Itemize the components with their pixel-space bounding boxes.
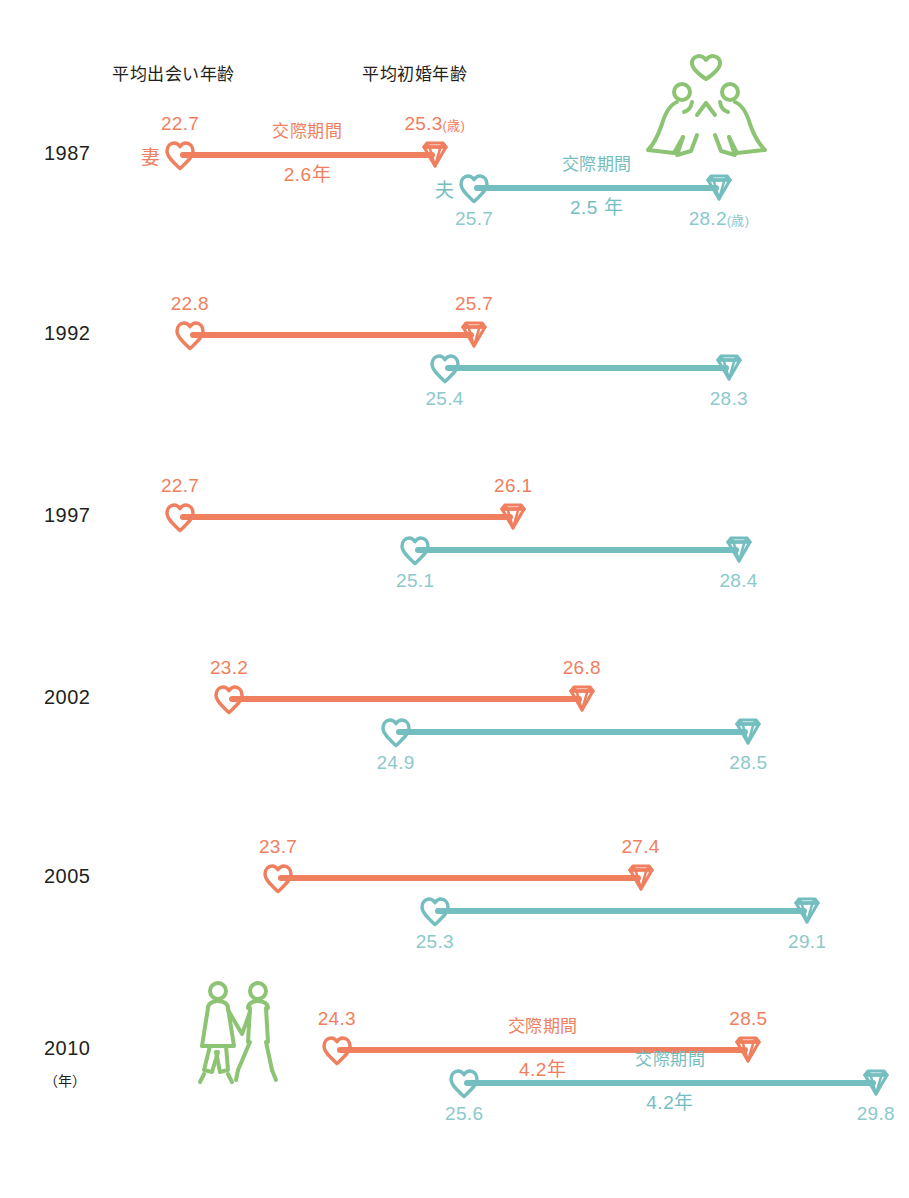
column-header-average-meeting-age: 平均出会い年齢 bbox=[112, 60, 235, 85]
courtship-line-husband bbox=[474, 185, 719, 191]
heart-marker-icon bbox=[418, 894, 452, 928]
wedding-couple-icon bbox=[646, 48, 766, 168]
diamond-marker-icon bbox=[496, 500, 530, 534]
marriage-age-value-wife: 25.3(歳) bbox=[404, 113, 465, 135]
courtship-line-husband bbox=[445, 365, 729, 371]
year-label: 1997 bbox=[44, 504, 91, 527]
heart-marker-icon bbox=[447, 1066, 481, 1100]
courtship-line-wife bbox=[180, 514, 513, 520]
marriage-age-value-husband: 28.5 bbox=[729, 752, 767, 774]
courtship-line-husband bbox=[415, 547, 738, 553]
meeting-age-value-wife: 22.7 bbox=[161, 113, 199, 135]
age-unit-label: (歳) bbox=[727, 213, 750, 228]
infographic-canvas: 平均出会い年齢 平均初婚年齢 bbox=[0, 0, 909, 1198]
year-label: 1992 bbox=[44, 322, 91, 345]
meeting-age-value-husband: 25.1 bbox=[396, 570, 434, 592]
meeting-age-value-husband: 25.6 bbox=[445, 1103, 483, 1125]
heart-marker-icon bbox=[379, 715, 413, 749]
courtship-line-wife bbox=[229, 696, 582, 702]
marriage-age-value-husband: 29.1 bbox=[788, 931, 826, 953]
meeting-age-value-wife: 23.7 bbox=[259, 836, 297, 858]
courtship-line-husband bbox=[464, 1080, 876, 1086]
diamond-marker-icon bbox=[702, 171, 736, 205]
courtship-duration-value-wife: 2.6年 bbox=[284, 163, 331, 187]
courtship-line-husband bbox=[435, 908, 807, 914]
year-label: 1987 bbox=[44, 142, 91, 165]
marriage-age-value-husband: 28.2(歳) bbox=[689, 208, 750, 230]
courtship-line-wife bbox=[180, 152, 435, 158]
courtship-line-wife bbox=[190, 332, 474, 338]
heart-marker-icon bbox=[163, 138, 197, 172]
year-label: 2002 bbox=[44, 686, 91, 709]
year-label: 2005 bbox=[44, 865, 91, 888]
marriage-age-value-husband: 28.4 bbox=[720, 570, 758, 592]
courtship-period-label-wife: 交際期間 bbox=[508, 1016, 578, 1037]
marriage-age-value-wife: 28.5 bbox=[729, 1008, 767, 1030]
marriage-age-value-wife: 26.1 bbox=[494, 475, 532, 497]
courtship-line-wife bbox=[278, 875, 641, 881]
courtship-period-label-husband: 交際期間 bbox=[562, 154, 632, 175]
role-label-wife: 妻 bbox=[141, 142, 160, 169]
marriage-age-value-wife: 25.7 bbox=[455, 293, 493, 315]
meeting-age-value-wife: 24.3 bbox=[318, 1008, 356, 1030]
diamond-marker-icon bbox=[565, 682, 599, 716]
diamond-marker-icon bbox=[731, 1033, 765, 1067]
diamond-marker-icon bbox=[722, 533, 756, 567]
heart-marker-icon bbox=[173, 318, 207, 352]
column-header-average-first-marriage-age: 平均初婚年齢 bbox=[362, 60, 467, 85]
heart-marker-icon bbox=[428, 351, 462, 385]
diamond-marker-icon bbox=[790, 894, 824, 928]
meeting-age-value-wife: 22.8 bbox=[171, 293, 209, 315]
role-label-husband: 夫 bbox=[435, 175, 454, 202]
meeting-age-value-husband: 25.4 bbox=[426, 388, 464, 410]
diamond-marker-icon bbox=[712, 351, 746, 385]
heart-marker-icon bbox=[398, 533, 432, 567]
meeting-age-value-husband: 25.3 bbox=[416, 931, 454, 953]
age-unit-label: (歳) bbox=[443, 118, 466, 133]
heart-marker-icon bbox=[457, 171, 491, 205]
courtship-period-label-husband: 交際期間 bbox=[635, 1049, 705, 1070]
courtship-duration-value-husband: 2.5 年 bbox=[570, 196, 623, 220]
diamond-marker-icon bbox=[457, 318, 491, 352]
diamond-marker-icon bbox=[731, 715, 765, 749]
marriage-age-value-wife: 26.8 bbox=[563, 657, 601, 679]
diamond-marker-icon bbox=[418, 138, 452, 172]
heart-marker-icon bbox=[261, 861, 295, 895]
year-label: 2010 bbox=[44, 1037, 91, 1060]
heart-marker-icon bbox=[163, 500, 197, 534]
courtship-line-husband bbox=[396, 729, 749, 735]
marriage-age-value-husband: 29.8 bbox=[857, 1103, 895, 1125]
year-axis-unit: （年） bbox=[44, 1070, 86, 1090]
meeting-age-value-husband: 24.9 bbox=[377, 752, 415, 774]
marriage-age-value-husband: 28.3 bbox=[710, 388, 748, 410]
courtship-period-label-wife: 交際期間 bbox=[272, 121, 342, 142]
meeting-age-value-husband: 25.7 bbox=[455, 208, 493, 230]
courtship-duration-value-wife: 4.2年 bbox=[519, 1058, 566, 1082]
walking-couple-icon bbox=[192, 978, 296, 1088]
diamond-marker-icon bbox=[859, 1066, 893, 1100]
marriage-age-value-wife: 27.4 bbox=[622, 836, 660, 858]
heart-marker-icon bbox=[320, 1033, 354, 1067]
meeting-age-value-wife: 23.2 bbox=[210, 657, 248, 679]
meeting-age-value-wife: 22.7 bbox=[161, 475, 199, 497]
heart-marker-icon bbox=[212, 682, 246, 716]
diamond-marker-icon bbox=[624, 861, 658, 895]
courtship-duration-value-husband: 4.2年 bbox=[646, 1091, 693, 1115]
